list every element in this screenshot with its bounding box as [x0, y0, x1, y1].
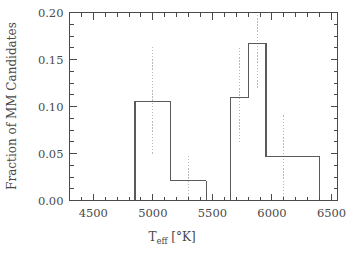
y-tick-labels: 0.000.050.100.150.20 [38, 6, 64, 208]
x-tick-label: 4500 [79, 206, 108, 220]
x-tick-label: 5000 [138, 206, 167, 220]
x-axis-label-base: T [148, 230, 156, 244]
y-tick-label: 0.15 [38, 53, 64, 67]
y-axis-label: Fraction of MM Candidates [5, 22, 19, 190]
axis-frame [70, 13, 338, 201]
svg-text:Teff [°K]: Teff [°K] [148, 230, 195, 246]
y-tick-label: 0.05 [38, 147, 64, 161]
histogram-outline [135, 44, 320, 201]
histogram-plot: 45005000550060006500 0.000.050.100.150.2… [0, 0, 357, 254]
x-axis-label: Teff [°K] [148, 230, 195, 246]
y-tick-label: 0.00 [38, 194, 64, 208]
chart-figure: 45005000550060006500 0.000.050.100.150.2… [0, 0, 357, 254]
error-bars-group [153, 13, 284, 201]
x-axis-label-unit: [°K] [171, 230, 195, 244]
x-tick-labels: 45005000550060006500 [79, 206, 347, 220]
x-tick-label: 6500 [317, 206, 346, 220]
y-tick-label: 0.20 [38, 6, 64, 20]
axis-ticks-group [70, 13, 338, 201]
x-tick-label: 6000 [257, 206, 286, 220]
x-tick-label: 5500 [198, 206, 227, 220]
y-tick-label: 0.10 [38, 100, 64, 114]
